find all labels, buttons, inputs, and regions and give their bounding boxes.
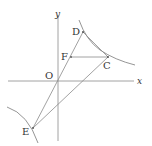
y-axis-label: y xyxy=(54,9,61,19)
point-D-dot xyxy=(82,31,84,33)
coordinate-diagram: y x O D F C E xyxy=(0,0,152,146)
point-C-dot xyxy=(107,56,109,58)
point-C-label: C xyxy=(103,60,111,71)
point-E-label: E xyxy=(22,126,29,137)
point-F-label: F xyxy=(61,51,68,62)
point-F-dot xyxy=(70,56,72,58)
segment-DC xyxy=(83,32,108,57)
point-D-label: D xyxy=(72,26,80,37)
x-axis-label: x xyxy=(137,76,142,86)
origin-label: O xyxy=(45,70,53,81)
segment-CE xyxy=(33,57,108,128)
hyperbola-lower-branch xyxy=(7,107,38,143)
point-E-dot xyxy=(32,127,34,129)
